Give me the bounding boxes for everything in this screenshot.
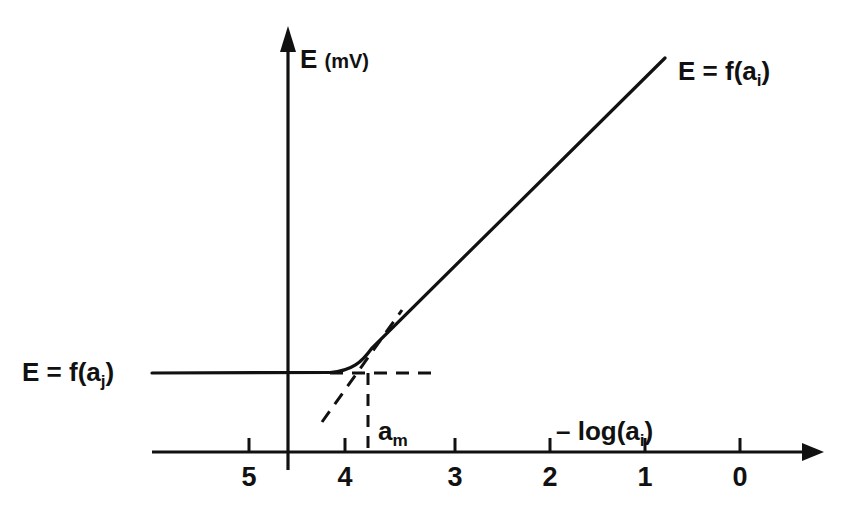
response-curve <box>152 58 665 373</box>
y-axis-title-unit: (mV) <box>325 50 369 72</box>
x-axis-title-suffix: ) <box>645 416 654 446</box>
y-axis <box>280 26 296 470</box>
x-tick-label: 0 <box>720 462 760 493</box>
x-axis-title: – log(ai) <box>556 418 653 449</box>
plateau-label: E = f(aj) <box>22 359 114 390</box>
x-tick-label: 2 <box>530 462 570 493</box>
x-tick-label: 5 <box>229 462 269 493</box>
figure-canvas: E (mV) E = f(ai) E = f(aj) am – log(ai) … <box>0 0 862 532</box>
x-tick-label: 3 <box>435 462 475 493</box>
plateau-label-suffix: ) <box>106 357 115 387</box>
x-axis-ticks <box>249 438 740 452</box>
detection-limit-label-main: a <box>378 416 392 446</box>
y-axis-title-symbol: E <box>300 44 317 74</box>
plateau-label-main: E = f(a <box>22 357 101 387</box>
y-axis-title: E (mV) <box>300 46 369 72</box>
detection-limit-label-subscript: m <box>392 430 407 450</box>
x-tick-label: 4 <box>325 462 365 493</box>
x-axis <box>152 443 824 461</box>
x-tick-label: 1 <box>625 462 665 493</box>
response-curve-label-suffix: ) <box>762 56 771 86</box>
linear-extrapolation-dashed <box>322 310 402 422</box>
x-axis-title-minus: – <box>556 416 570 446</box>
response-curve-label-main: E = f(a <box>678 56 757 86</box>
x-axis-title-main: log(a <box>578 416 640 446</box>
response-curve-label: E = f(ai) <box>678 58 770 89</box>
detection-limit-label: am <box>378 418 408 449</box>
